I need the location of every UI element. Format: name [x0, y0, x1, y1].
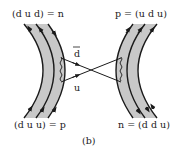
quark-u-label: u — [74, 83, 80, 93]
top-left-hadron-label: (d u d) = n — [12, 9, 64, 19]
quark-exchange-lines — [61, 58, 121, 82]
antiquark-d-label: d — [74, 49, 80, 59]
left-hadron-band — [24, 24, 65, 118]
right-hadron-band — [116, 24, 157, 118]
top-right-hadron-label: p = (u d u) — [115, 9, 167, 19]
bottom-right-hadron-label: n = (d d u) — [118, 120, 170, 130]
bottom-left-hadron-label: (d u u) = p — [14, 120, 66, 130]
figure-caption: (b) — [82, 136, 96, 146]
